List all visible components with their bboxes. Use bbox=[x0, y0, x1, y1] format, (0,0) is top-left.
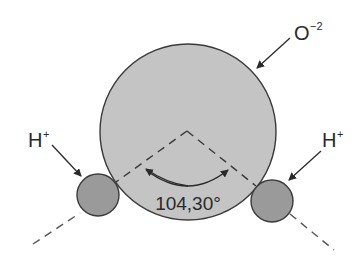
hydrogen-left-label: H bbox=[28, 129, 42, 151]
oxygen-charge: −2 bbox=[310, 20, 323, 32]
hydrogen-left-pointer-arrow bbox=[52, 145, 81, 176]
hydrogen-atom-left bbox=[77, 174, 119, 216]
oxygen-pointer-arrow bbox=[257, 38, 290, 68]
oxygen-label: O bbox=[294, 22, 310, 44]
bond-line-left-outer bbox=[33, 213, 80, 244]
bond-line-right-outer bbox=[290, 214, 334, 250]
water-molecule-diagram: 104,30° O −2 H + H + bbox=[0, 0, 363, 269]
hydrogen-right-charge: + bbox=[337, 128, 343, 140]
hydrogen-right-pointer-arrow bbox=[289, 151, 321, 180]
bond-angle-label: 104,30° bbox=[155, 193, 221, 214]
hydrogen-left-charge: + bbox=[43, 128, 49, 140]
hydrogen-atom-right bbox=[251, 180, 293, 222]
hydrogen-right-label: H bbox=[322, 129, 336, 151]
